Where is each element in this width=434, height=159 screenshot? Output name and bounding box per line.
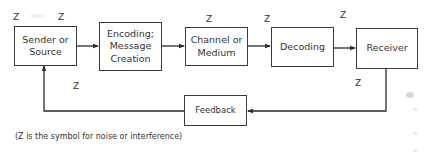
decoding-box: Decoding [271,27,334,67]
sender-box: Sender or Source [14,26,77,66]
receiver-box: Receiver [356,28,418,69]
encoding-box: Encoding; Message Creation [99,22,162,71]
channel-label: Channel or Medium [191,34,243,59]
noise-marker-sender-right: Z [58,12,64,22]
receiver-label: Receiver [366,42,407,55]
noise-marker-decoding: Z [264,14,270,24]
feedback-label: Feedback [195,104,235,117]
feedback-box: Feedback [184,95,247,126]
diagram-caption: (Z is the symbol for noise or interferen… [15,132,182,141]
communication-diagram: Sender or Source Encoding; Message Creat… [0,0,434,159]
decoding-label: Decoding [280,41,325,54]
sender-label: Sender or Source [22,34,68,59]
channel-box: Channel or Medium [185,27,248,66]
encoding-label: Encoding; Message Creation [107,28,154,66]
noise-marker-channel: Z [206,14,212,24]
noise-marker-receiver: Z [340,10,346,20]
noise-marker-loop-left: Z [73,81,79,91]
noise-marker-sender-left: Z [13,12,19,22]
noise-marker-loop-right: Z [355,78,361,88]
